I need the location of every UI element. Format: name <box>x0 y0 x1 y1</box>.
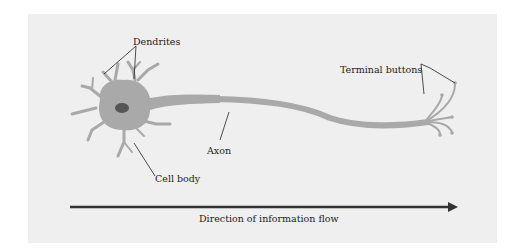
label-terminal-buttons: Terminal buttons <box>340 65 422 75</box>
flow-arrow <box>70 202 458 212</box>
axon-shape <box>215 99 428 125</box>
terminal-branches <box>425 84 455 134</box>
label-dendrites: Dendrites <box>133 37 180 47</box>
label-flow-direction: Direction of information flow <box>199 214 339 224</box>
label-cell-body: Cell body <box>155 174 200 184</box>
label-axon: Axon <box>207 146 231 156</box>
nucleus <box>115 103 129 113</box>
